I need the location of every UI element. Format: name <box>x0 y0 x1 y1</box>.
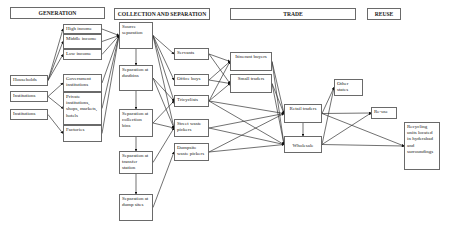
source-institutions-2: Institutions <box>10 109 48 120</box>
gen-high-income: High income <box>63 24 102 34</box>
sep-dump-sites: Separation at dump sites <box>119 194 153 221</box>
flow-arrow <box>209 145 284 153</box>
flow-arrow <box>322 145 404 147</box>
sep-source: Source separation <box>119 22 153 49</box>
col-tricyclists: Tricyclists <box>174 95 209 107</box>
trade-small-traders: Small traders <box>230 74 272 93</box>
flow-arrow <box>153 36 174 81</box>
flow-arrow <box>272 62 284 145</box>
flow-arrow <box>48 115 63 134</box>
flow-arrow <box>48 42 63 81</box>
flow-arrow <box>322 113 371 114</box>
flow-arrow <box>153 36 174 102</box>
flow-arrow <box>209 84 230 102</box>
reuse-other-states: Other states <box>334 79 363 96</box>
flow-arrow <box>209 54 230 84</box>
flow-arrow <box>209 114 284 153</box>
flow-arrow <box>322 88 334 114</box>
gen-middle-income: Middle income <box>63 34 102 49</box>
flow-arrow <box>102 36 119 134</box>
header-generation: GENERATION <box>10 7 105 19</box>
flow-arrow <box>48 55 63 81</box>
trade-wholesale: Wholesale <box>284 136 322 153</box>
source-institutions-1: Institutions <box>10 91 48 102</box>
flow-arrow <box>209 62 230 102</box>
flow-arrow <box>209 54 230 62</box>
trade-retail-traders: Retail traders <box>284 104 322 123</box>
flow-arrow <box>153 123 174 128</box>
flow-arrow <box>209 128 284 145</box>
flow-arrow <box>153 128 174 163</box>
trade-itinerant-buyers: Itinerant buyers <box>230 52 272 71</box>
header-reuse: REUSE <box>367 8 401 20</box>
flow-arrow <box>102 29 119 36</box>
header-trade: TRADE <box>230 8 356 20</box>
flow-arrow <box>209 62 230 81</box>
flow-arrow <box>48 83 63 97</box>
col-street-waste-pickers: Street waste pickers <box>174 119 209 137</box>
flow-arrow <box>48 29 63 81</box>
flow-arrow <box>322 113 371 145</box>
flow-arrow <box>209 114 284 129</box>
sep-dustbins: Separation at dustbins <box>119 65 153 91</box>
col-dumpsite-waste-pickers: Dumpsite waste pickers <box>174 143 209 161</box>
flow-arrow <box>322 88 334 145</box>
flow-arrow <box>102 36 119 109</box>
reuse-re-use: Re-use <box>371 107 397 119</box>
header-collection-separation: COLLECTION AND SEPARATION <box>114 8 210 20</box>
flow-arrow <box>153 78 174 128</box>
gen-government-institutions: Government institutions <box>63 74 102 92</box>
col-servants: Servants <box>174 48 209 60</box>
sep-collection-bins: Separation at collection bins <box>119 109 153 137</box>
flow-arrow <box>48 97 63 109</box>
reuse-recycling-units: Recycling units located in hyderabad and… <box>404 122 440 170</box>
sep-transfer-station: Separation at transfer station <box>119 151 153 174</box>
waste-flow-diagram: GENERATION COLLECTION AND SEPARATION TRA… <box>0 0 450 232</box>
gen-private-institutions: Private institutions, shops, markets, ho… <box>63 92 102 125</box>
flow-arrow <box>102 36 119 84</box>
gen-factories: Factories <box>63 125 102 142</box>
flow-arrow <box>153 152 174 208</box>
col-office-boys: Office boys <box>174 74 209 86</box>
gen-low-income: Low income <box>63 49 102 60</box>
source-households: Households <box>10 75 48 86</box>
